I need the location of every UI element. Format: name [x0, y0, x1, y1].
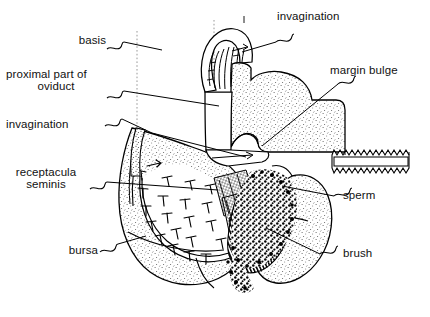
label-proximal-oviduct-line1: proximal part of [6, 68, 106, 81]
label-receptacula-line1: receptacula [2, 166, 90, 179]
diagram-canvas [0, 0, 430, 317]
oviduct-stem [205, 92, 232, 150]
right-body-block [231, 63, 345, 152]
label-invagination-left: invagination [6, 118, 106, 131]
label-bursa: bursa [2, 244, 98, 257]
label-proximal-oviduct-line2: oviduct [6, 80, 106, 93]
figure-panel: basis proximal part of oviduct invaginat… [0, 0, 430, 317]
label-brush: brush [343, 247, 372, 260]
label-invagination-top: invagination [277, 10, 340, 23]
label-margin-bulge: margin bulge [330, 64, 398, 77]
margin-bulge-band [332, 150, 409, 173]
label-receptacula-line2: seminis [2, 178, 90, 191]
label-basis: basis [8, 34, 106, 47]
label-sperm: sperm [343, 189, 375, 202]
